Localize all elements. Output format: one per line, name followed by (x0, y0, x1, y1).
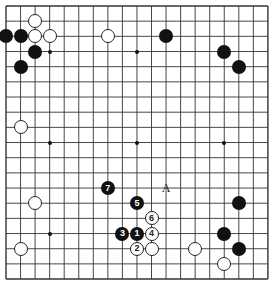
white-stone (43, 29, 57, 43)
white-stone (188, 242, 202, 256)
black-stone (14, 29, 28, 43)
black-stone (28, 45, 42, 59)
black-stone (232, 242, 246, 256)
white-stone-move-4: 4 (145, 227, 159, 241)
star-point (135, 141, 139, 145)
black-stone-move-7: 7 (101, 181, 115, 195)
black-stone (14, 60, 28, 74)
star-point (48, 232, 52, 236)
black-stone-move-3: 3 (115, 227, 129, 241)
white-stone (14, 242, 28, 256)
black-stone (232, 60, 246, 74)
black-stone (232, 196, 246, 210)
point-label-a: A (162, 181, 171, 196)
white-stone-move-6: 6 (145, 211, 159, 225)
star-point (222, 141, 226, 145)
black-stone (217, 45, 231, 59)
star-point (48, 50, 52, 54)
white-stone-move-2: 2 (130, 242, 144, 256)
black-stone-move-1: 1 (130, 227, 144, 241)
star-point (135, 50, 139, 54)
white-stone (145, 242, 159, 256)
white-stone (14, 120, 28, 134)
go-board: 7563142 A (0, 0, 274, 289)
star-point (48, 141, 52, 145)
black-stone (217, 227, 231, 241)
